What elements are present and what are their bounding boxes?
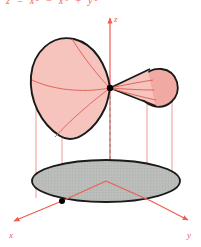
y-axis-line [151, 201, 188, 220]
surface-plot-svg [0, 0, 201, 247]
origin-marker [59, 198, 65, 204]
surface-main-lobe [31, 38, 110, 139]
y-axis-group [151, 201, 188, 220]
x-axis-group [14, 201, 62, 221]
pink-surface-group [31, 38, 178, 139]
base-projection-ellipse-group [32, 160, 180, 202]
y-axis-label: y [187, 230, 191, 240]
x-axis-label: x [9, 230, 13, 240]
saddle-point-marker [107, 85, 113, 91]
figure-container: z = x² − x³ + y² [0, 0, 201, 247]
z-axis-label: z [114, 14, 118, 24]
x-axis-line [14, 201, 62, 221]
